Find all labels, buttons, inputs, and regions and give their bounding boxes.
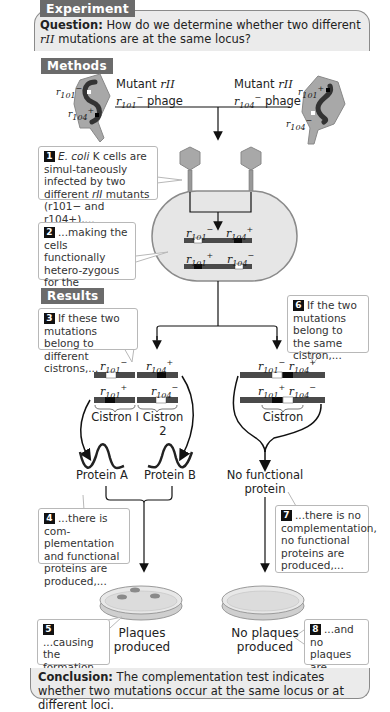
label-text: produced bbox=[114, 640, 170, 654]
step-8-callout: 8...and no plaques are formed. bbox=[304, 619, 369, 665]
step-4-callout: 4...there is com-plementation and functi… bbox=[38, 508, 130, 564]
label-text: No functional bbox=[227, 468, 304, 482]
cistron-2-label: Cistron 2 bbox=[138, 410, 188, 438]
step-3-callout: 3If these two mutations belong to differ… bbox=[38, 308, 138, 350]
right-label-top: r101− r104+ bbox=[258, 358, 316, 375]
results-tag: Results bbox=[41, 288, 104, 304]
right-label-bottom: r101+ r104− bbox=[258, 383, 316, 400]
protein-b-label: Protein B bbox=[140, 468, 200, 482]
step-number-badge: 6 bbox=[293, 300, 304, 311]
right-phage-allele-2: r104− bbox=[286, 116, 312, 132]
allele-label: r104− bbox=[234, 95, 261, 108]
label-text: phage bbox=[265, 94, 301, 108]
gene-name: rII bbox=[160, 77, 175, 91]
phage-left-label: Mutant rII r101− phage bbox=[116, 77, 183, 113]
left-label-r104-plus: r104+ bbox=[146, 358, 173, 375]
protein-a-icon bbox=[80, 444, 124, 468]
step-5-callout: 5...causing the formation of plaques. bbox=[37, 619, 110, 665]
label-text: protein bbox=[245, 482, 286, 496]
label-text: Mutant bbox=[234, 77, 275, 91]
left-label-r101-plus: r101+ bbox=[100, 383, 127, 400]
petri-dish-no-plaques-icon bbox=[222, 586, 304, 620]
step-7-callout: 7...there is no complementation, no func… bbox=[275, 505, 369, 573]
label-text: No plaques bbox=[231, 626, 298, 640]
step-number-badge: 8 bbox=[310, 624, 321, 635]
infecting-phage-left-icon bbox=[180, 147, 200, 192]
left-phage-allele-2: r104+ bbox=[68, 106, 94, 122]
cistron-label: Cistron bbox=[258, 410, 308, 424]
left-label-r101-minus: r101− bbox=[100, 358, 127, 375]
no-plaques-produced-label: No plaques produced bbox=[230, 626, 300, 654]
allele-label: r101− bbox=[116, 95, 143, 108]
cell-label-r104-plus: r104+ bbox=[226, 225, 253, 242]
petri-dish-plaques-icon bbox=[100, 586, 182, 620]
phage-right-label: Mutant rII r104− phage bbox=[234, 77, 301, 113]
step-6-callout: 6If the two mutations belong to the same… bbox=[287, 295, 369, 353]
label-text: produced bbox=[237, 640, 293, 654]
step-number-badge: 2 bbox=[44, 227, 55, 238]
cistron-1-label: Cistron I bbox=[90, 410, 140, 424]
step-number-badge: 4 bbox=[44, 513, 55, 524]
label-text: phage bbox=[147, 94, 183, 108]
cell-label-r101-minus: r101− bbox=[186, 225, 213, 242]
step-number-badge: 7 bbox=[281, 510, 292, 521]
left-phage-allele-1: r101− bbox=[56, 84, 82, 100]
step-number-badge: 3 bbox=[44, 313, 55, 324]
conclusion-label: Conclusion: bbox=[38, 670, 113, 684]
right-phage-allele-1: r101+ bbox=[298, 84, 324, 100]
no-functional-protein-label: No functional protein bbox=[225, 468, 305, 496]
step-number-badge: 1 bbox=[44, 151, 55, 162]
step-number-badge: 5 bbox=[43, 624, 54, 635]
label-text: Plaques bbox=[119, 626, 166, 640]
step-2-callout: 2...making the cells functionally hetero… bbox=[38, 222, 136, 280]
cell-label-r104-minus: r104− bbox=[227, 251, 254, 268]
conclusion-text: Conclusion: The complementation test ind… bbox=[38, 670, 366, 712]
step-1-callout: 1E. coli K cells are simul-taneously inf… bbox=[38, 146, 158, 200]
cell-label-r101-plus: r101+ bbox=[186, 251, 213, 268]
infecting-phage-right-icon bbox=[241, 147, 261, 192]
plaques-produced-label: Plaques produced bbox=[112, 626, 172, 654]
callout-text: ...there is no complementation, no funct… bbox=[281, 509, 377, 571]
organism-name: E. coli bbox=[58, 150, 89, 162]
gene-name: rII bbox=[92, 188, 103, 200]
gene-name: rII bbox=[278, 77, 293, 91]
protein-a-label: Protein A bbox=[72, 468, 132, 482]
label-text: Mutant bbox=[116, 77, 157, 91]
left-label-r104-minus: r104− bbox=[151, 383, 178, 400]
